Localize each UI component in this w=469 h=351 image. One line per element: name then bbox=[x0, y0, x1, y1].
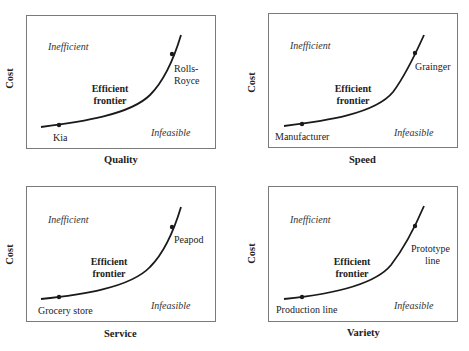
panel-service: Cost Inefficient Efficient frontier Infe… bbox=[0, 175, 235, 351]
point-label-low: Grocery store bbox=[38, 305, 93, 316]
point-label-high-line2: Royce bbox=[174, 75, 200, 86]
region-inefficient: Inefficient bbox=[290, 214, 331, 225]
point-high bbox=[413, 224, 417, 228]
region-infeasible: Infeasible bbox=[151, 300, 190, 311]
x-axis-label: Speed bbox=[349, 154, 376, 165]
point-label-high-line1: Prototype bbox=[411, 243, 450, 254]
frontier-label-line1: Efficient bbox=[330, 256, 374, 267]
point-label-high-line1: Peapod bbox=[174, 234, 203, 245]
point-label-high-line2: line bbox=[425, 255, 440, 266]
panel-quality: Cost Inefficient Efficient frontier Infe… bbox=[0, 0, 235, 175]
x-axis-label: Service bbox=[104, 328, 137, 339]
x-axis-label: Variety bbox=[347, 327, 380, 338]
region-inefficient: Inefficient bbox=[48, 41, 89, 52]
region-infeasible: Infeasible bbox=[394, 127, 433, 138]
point-label-high-line1: Rolls- bbox=[174, 63, 198, 74]
region-inefficient: Inefficient bbox=[48, 214, 89, 225]
point-low bbox=[57, 123, 61, 127]
point-label-high-line1: Grainger bbox=[415, 61, 451, 72]
frontier-label-line2: frontier bbox=[330, 268, 374, 279]
point-label-low: Kia bbox=[53, 132, 67, 143]
point-low bbox=[57, 295, 61, 299]
point-high bbox=[170, 225, 174, 229]
panel-variety: Cost Inefficient Efficient frontier Infe… bbox=[235, 175, 469, 351]
point-high bbox=[413, 51, 417, 55]
point-label-low: Manufacturer bbox=[275, 131, 329, 142]
point-label-low: Production line bbox=[276, 304, 337, 315]
region-inefficient: Inefficient bbox=[290, 40, 331, 51]
frontier-label-line1: Efficient bbox=[88, 83, 132, 94]
frontier-label-line1: Efficient bbox=[331, 83, 375, 94]
frontier-label-line1: Efficient bbox=[87, 256, 131, 267]
x-axis-label: Quality bbox=[104, 154, 138, 165]
frontier-label-line2: frontier bbox=[87, 268, 131, 279]
point-high bbox=[170, 52, 174, 56]
frontier-label-line2: frontier bbox=[331, 95, 375, 106]
point-low bbox=[300, 295, 304, 299]
region-infeasible: Infeasible bbox=[151, 127, 190, 138]
panel-speed: Cost Inefficient Efficient frontier Infe… bbox=[235, 0, 469, 175]
region-infeasible: Infeasible bbox=[394, 300, 433, 311]
frontier-label-line2: frontier bbox=[88, 95, 132, 106]
point-low bbox=[300, 122, 304, 126]
